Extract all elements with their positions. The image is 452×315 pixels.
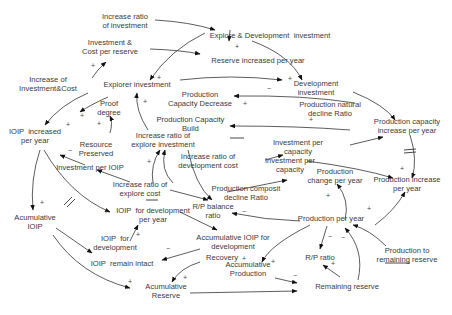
diagram-node: Accumulative Production	[225, 261, 270, 278]
diagram-node: Resource Preserved	[79, 141, 114, 158]
diagram-node: IOIP for development	[93, 235, 136, 252]
diagram-node: Remaining reserve	[315, 283, 379, 292]
polarity-sign: +	[143, 98, 147, 105]
polarity-sign: +	[400, 165, 404, 172]
diagram-node: Investment per capacity	[273, 139, 323, 156]
polarity-sign: +	[242, 255, 246, 262]
polarity-sign: −	[267, 85, 271, 92]
diagram-node: Accumulative IOIP for development	[196, 234, 269, 251]
diagram-node: IOIP increased per year	[9, 128, 61, 145]
polarity-sign: +	[128, 278, 132, 285]
diagram-node: IOIP remain intact	[91, 260, 154, 269]
polarity-sign: +	[235, 43, 239, 50]
polarity-sign: +	[288, 75, 292, 82]
polarity-sign: −	[166, 245, 170, 252]
diagram-node: Development investment	[294, 80, 339, 97]
diagram-node: Investment per IOIP	[56, 164, 124, 173]
diagram-node: Explore & Development investment	[210, 32, 331, 41]
polarity-sign: +	[367, 205, 371, 212]
diagram-node: Proof degree	[97, 100, 121, 117]
polarity-sign: +	[157, 74, 161, 81]
polarity-sign: +	[183, 274, 187, 281]
polarity-sign: +	[80, 112, 84, 119]
diagram-node: Increase ratio of explore cost	[113, 181, 167, 198]
polarity-sign: +	[40, 199, 44, 206]
polarity-sign: +	[147, 158, 151, 165]
polarity-sign: +	[104, 208, 108, 215]
diagram-node: Reserve increased per year	[211, 57, 304, 66]
polarity-sign: +	[91, 62, 95, 69]
polarity-sign: +	[66, 121, 70, 128]
polarity-sign: +	[271, 258, 275, 265]
diagram-node: Explorer investment	[103, 81, 170, 90]
diagram-node: Production per year	[298, 215, 364, 224]
causal-loop-diagram: Increase ratio of investmentExplore & De…	[0, 0, 452, 315]
diagram-node: Acumulative Reserve	[145, 283, 186, 300]
polarity-sign: −	[341, 234, 345, 241]
diagram-node: Increase ratio of investment	[102, 13, 148, 30]
diagram-node: Production capacity increase per year	[374, 118, 440, 135]
polarity-sign: −	[242, 208, 246, 215]
diagram-node: Investment & Cost per reserve	[82, 39, 138, 56]
polarity-sign: +	[326, 192, 330, 199]
polarity-sign: −	[328, 233, 332, 240]
polarity-sign: +	[331, 260, 335, 267]
diagram-node: Increase of Investment&Cost	[19, 76, 77, 93]
polarity-sign: +	[136, 231, 140, 238]
diagram-node: Increase ratio of development cost	[178, 153, 238, 170]
diagram-node: Production composit decline Ratio	[212, 185, 281, 202]
polarity-sign: −	[293, 272, 297, 279]
polarity-sign: +	[97, 120, 101, 127]
polarity-sign: +	[309, 116, 313, 123]
diagram-node: IOIP for development per year	[116, 207, 190, 224]
diagram-node: Acumulative IOIP	[14, 214, 55, 231]
diagram-node: Increase ratio of explore investment	[131, 132, 195, 149]
polarity-sign: −	[68, 147, 72, 154]
diagram-node: Production Capacity Decrease	[168, 91, 232, 108]
diagram-node: R/P balance ratio	[192, 203, 233, 220]
diagram-node: Production change per year	[308, 168, 363, 185]
diagram-node: Production to remaining reserve	[377, 247, 438, 264]
diagram-node: Production increase per year	[373, 176, 440, 193]
polarity-sign: +	[243, 100, 247, 107]
